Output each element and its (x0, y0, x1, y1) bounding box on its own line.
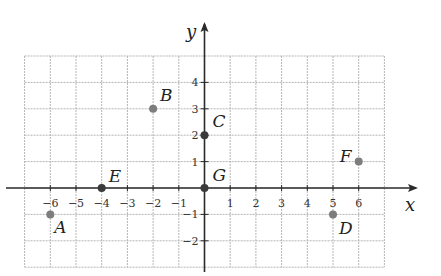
y-tick-label: 2 (192, 129, 199, 142)
y-axis-label: y (185, 21, 197, 42)
point-label-g: G (213, 165, 227, 185)
y-tick-label: −2 (182, 235, 198, 248)
x-tick-label: −4 (94, 197, 110, 210)
x-tick-label: 2 (252, 197, 259, 210)
x-tick-label: 6 (355, 197, 362, 210)
y-tick-label: −1 (182, 208, 198, 221)
x-tick-label: 4 (304, 197, 311, 210)
point-d (329, 210, 337, 218)
point-f (355, 158, 363, 166)
x-tick-label: 1 (227, 197, 234, 210)
y-tick-label: 4 (192, 76, 199, 89)
x-tick-label: 3 (278, 197, 285, 210)
x-tick-label: −5 (68, 197, 84, 210)
point-e (98, 184, 106, 192)
point-g (201, 184, 209, 192)
x-tick-label: −6 (42, 197, 58, 210)
x-axis-label: x (405, 194, 415, 215)
x-tick-label: 5 (330, 197, 337, 210)
y-tick-label: 3 (192, 103, 199, 116)
coordinate-plane: −6−5−4−3−2−11234564321−1−2 ABCDEFG x y (0, 0, 441, 276)
point-label-a: A (52, 217, 66, 237)
point-label-b: B (159, 85, 173, 105)
x-tick-label: −2 (145, 197, 161, 210)
point-b (149, 105, 157, 113)
point-label-e: E (108, 166, 122, 186)
point-label-d: D (338, 218, 353, 238)
point-a (46, 210, 54, 218)
axes (6, 24, 416, 272)
point-label-c: C (213, 111, 226, 131)
x-tick-label: −3 (119, 197, 135, 210)
y-tick-label: 1 (192, 156, 199, 169)
point-c (201, 131, 209, 139)
point-label-f: F (339, 146, 353, 166)
